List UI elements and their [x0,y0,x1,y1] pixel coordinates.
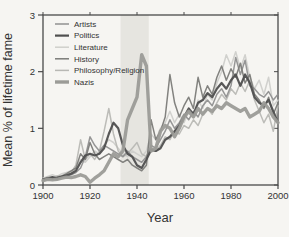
x-tick-label-1940: 1940 [126,190,147,201]
x-tick-label-1980: 1980 [220,190,241,201]
legend-label-artists: Artists [74,20,96,29]
legend-label-nazis: Nazis [74,78,94,87]
y-tick-label-0: 0 [30,180,35,191]
legend-label-history: History [74,55,99,64]
fame-chart-svg: 1900192019401960198020000123ArtistsPolit… [0,0,289,237]
x-tick-label-1900: 1900 [32,190,53,201]
legend-label-politics: Politics [74,31,99,40]
y-tick-label-3: 3 [30,10,35,21]
y-axis-label: Mean % of lifetime fame [1,33,15,167]
y-tick-label-2: 2 [30,66,35,77]
y-tick-label-1: 1 [30,123,35,134]
x-tick-label-1960: 1960 [173,190,194,201]
legend-label-literature: Literature [74,43,108,52]
fame-line-chart: 1900192019401960198020000123ArtistsPolit… [0,0,289,237]
x-tick-label-1920: 1920 [79,190,100,201]
x-axis-label: Year [147,210,174,225]
x-tick-label-2000: 2000 [267,190,288,201]
legend-label-philosophy-religion: Philosophy/Religion [74,66,144,75]
